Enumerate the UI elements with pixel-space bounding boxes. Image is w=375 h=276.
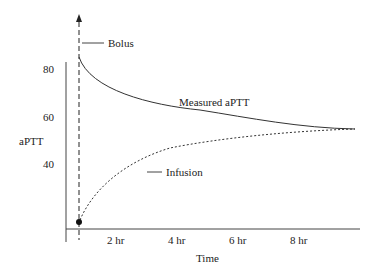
infusion-label: Infusion [166, 167, 203, 178]
y-tick-60: 60 [43, 112, 54, 123]
x-tick-8hr: 8 hr [290, 235, 307, 246]
chart-canvas [0, 0, 375, 276]
measured-aptt-label: Measured aPTT [179, 97, 250, 108]
x-axis-label: Time [196, 253, 219, 264]
start-point-marker [76, 219, 82, 225]
x-tick-2hr: 2 hr [107, 235, 124, 246]
x-tick-4hr: 4 hr [168, 235, 185, 246]
bolus-label: Bolus [108, 38, 134, 49]
y-axis-label: aPTT [19, 136, 43, 147]
bolus-arrow-icon [76, 14, 82, 22]
infusion-curve [80, 129, 355, 220]
x-tick-6hr: 6 hr [229, 235, 246, 246]
measured-aptt-curve [79, 57, 355, 129]
y-tick-80: 80 [43, 64, 54, 75]
y-tick-40: 40 [43, 159, 54, 170]
